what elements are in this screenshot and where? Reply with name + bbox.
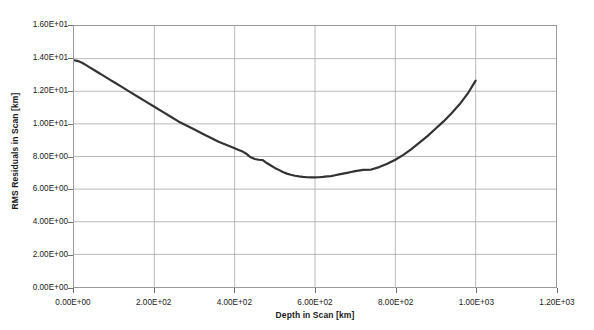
plot-area <box>73 25 557 288</box>
x-tick-label: 2.00E+02 <box>119 298 189 308</box>
y-tick-label: 8.00E+00 <box>4 152 68 162</box>
x-tick-mark <box>154 288 155 293</box>
y-tick-label: 1.20E+01 <box>4 86 68 96</box>
y-tick-label: 4.00E+00 <box>4 217 68 227</box>
y-tick-label: 2.00E+00 <box>4 250 68 260</box>
chart-container: RMS Residuals in Scan [km] 0.00E+002.00E… <box>0 0 594 330</box>
x-tick-mark <box>73 288 74 293</box>
x-tick-mark <box>557 288 558 293</box>
x-tick-label: 6.00E+02 <box>280 298 350 308</box>
y-tick-label: 1.60E+01 <box>4 20 68 30</box>
x-tick-label: 1.20E+03 <box>522 298 592 308</box>
y-tick-label: 1.00E+01 <box>4 119 68 129</box>
x-axis-tick-labels: 0.00E+002.00E+024.00E+026.00E+028.00E+02… <box>0 293 594 307</box>
data-series-line <box>74 26 556 287</box>
x-tick-mark <box>234 288 235 293</box>
y-tick-label: 1.40E+01 <box>4 53 68 63</box>
x-tick-mark <box>396 288 397 293</box>
x-axis-title: Depth in Scan [km] <box>73 310 557 320</box>
y-axis-tick-labels: 0.00E+002.00E+004.00E+006.00E+008.00E+00… <box>0 0 68 330</box>
x-tick-label: 8.00E+02 <box>361 298 431 308</box>
series-path <box>74 60 476 177</box>
y-tick-label: 6.00E+00 <box>4 184 68 194</box>
x-tick-label: 0.00E+00 <box>38 298 108 308</box>
x-tick-mark <box>315 288 316 293</box>
x-tick-label: 4.00E+02 <box>199 298 269 308</box>
x-tick-label: 1.00E+03 <box>441 298 511 308</box>
x-tick-mark <box>476 288 477 293</box>
y-tick-label: 0.00E+00 <box>4 283 68 293</box>
